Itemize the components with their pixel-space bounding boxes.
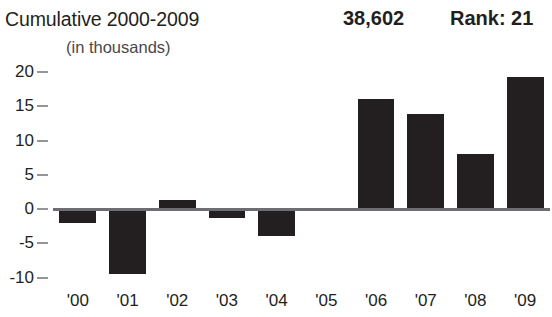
plot-area: 20151050-5-10'00'01'02'03'04'05'06'07'08… [0,0,552,317]
y-axis-tick [37,174,48,176]
bar [109,209,146,274]
chart-figure: Cumulative 2000-2009 38,602 Rank: 21 (in… [0,0,552,317]
x-axis-tick-label: '05 [302,291,352,311]
zero-baseline [53,208,550,211]
x-axis-tick-label: '06 [351,291,401,311]
y-axis-tick-label: 20 [0,62,34,82]
x-axis-tick-label: '02 [152,291,202,311]
y-axis-tick [37,71,48,73]
bar [358,99,395,209]
y-axis-tick-label: -5 [0,233,34,253]
bar [59,209,96,223]
x-axis-tick-label: '08 [451,291,501,311]
x-axis-tick-label: '01 [103,291,153,311]
y-axis-tick [37,140,48,142]
y-axis-tick-label: 10 [0,131,34,151]
y-axis-tick [37,208,48,210]
x-axis-tick-label: '04 [252,291,302,311]
x-axis-tick-label: '07 [401,291,451,311]
y-axis-tick-label: 5 [0,165,34,185]
y-axis-tick [37,277,48,279]
x-axis-tick-label: '09 [500,291,550,311]
bar [507,77,544,209]
bar [457,154,494,209]
x-axis-tick-label: '03 [202,291,252,311]
y-axis-tick [37,242,48,244]
y-axis-tick-label: 0 [0,199,34,219]
y-axis-tick-label: 15 [0,96,34,116]
bar [407,114,444,209]
x-axis-tick-label: '00 [53,291,103,311]
bar [258,209,295,236]
y-axis-tick-label: -10 [0,268,34,288]
y-axis-tick [37,105,48,107]
